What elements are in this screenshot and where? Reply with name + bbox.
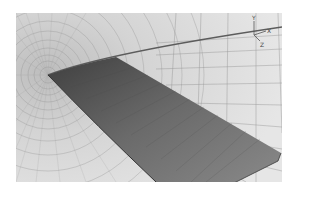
x-axis-label: X	[267, 27, 271, 34]
mesh-render: Y X Z	[16, 13, 282, 182]
mesh-viewport: Y X Z	[16, 13, 282, 182]
y-axis-label: Y	[251, 14, 256, 21]
z-axis-label: Z	[260, 41, 264, 48]
